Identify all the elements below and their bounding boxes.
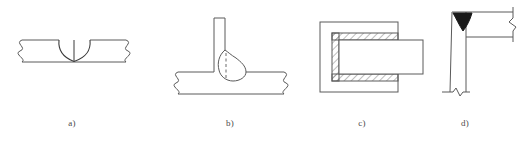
figure-label-c: c) bbox=[358, 118, 365, 128]
welded-joints-drawing bbox=[0, 0, 527, 143]
figure-label-d: d) bbox=[461, 118, 469, 128]
inserted-bar-rectangle bbox=[339, 40, 423, 74]
right-break-symbol bbox=[125, 40, 130, 62]
hatched-weld-bottom bbox=[332, 74, 398, 81]
panel-d-corner-joint bbox=[442, 7, 516, 96]
right-break-symbol bbox=[283, 72, 288, 94]
figure-label-b: b) bbox=[226, 118, 234, 128]
left-break-symbol bbox=[174, 72, 179, 94]
welded-joints-figure-sheet: a) b) c) d) bbox=[0, 0, 527, 143]
v-groove-weld-right-arc bbox=[74, 40, 90, 62]
panel-b-tee-joint bbox=[174, 18, 288, 94]
vertical-member-left-edge bbox=[450, 12, 452, 92]
v-groove-weld-left-arc bbox=[59, 40, 74, 62]
corner-fillet-weld-filled bbox=[453, 13, 472, 31]
panel-a-butt-joint bbox=[18, 40, 130, 62]
hatched-weld-top bbox=[332, 33, 398, 40]
figure-label-a: a) bbox=[68, 118, 75, 128]
left-break-symbol bbox=[18, 40, 23, 62]
panel-c-socket-joint bbox=[320, 22, 423, 92]
fillet-weld-bead bbox=[218, 50, 246, 81]
